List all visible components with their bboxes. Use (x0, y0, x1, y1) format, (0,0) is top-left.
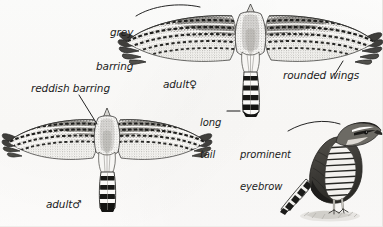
female-symbol-icon: ♀ (189, 78, 197, 90)
label-prominent-eyebrow: prominent eyebrow (240, 129, 291, 214)
label-grey-barring: grey barring (96, 5, 133, 94)
leader-reddish-barring (79, 95, 97, 124)
label-long-tail: long tail (200, 97, 221, 182)
label-adult-male: adult♂ (33, 188, 82, 221)
label-adult-female: adult♀ (150, 68, 197, 101)
label-prominent-eyebrow-line2: eyebrow (240, 182, 291, 193)
label-adult-female-text: adult (163, 78, 189, 90)
label-grey-barring-line2: barring (96, 61, 133, 72)
leader-grey-barring (136, 5, 200, 16)
label-grey-barring-line1: grey (96, 27, 133, 38)
label-prominent-eyebrow-line1: prominent (240, 150, 291, 161)
label-long-tail-line1: long (200, 118, 221, 129)
male-symbol-icon: ♂ (72, 198, 81, 210)
label-reddish-barring: reddish barring (31, 83, 110, 94)
leader-prominent-eyebrow (288, 121, 340, 131)
illustration-plate: grey barring adult♀ rounded wings reddis… (0, 0, 383, 227)
label-rounded-wings: rounded wings (283, 70, 359, 81)
label-long-tail-line2: tail (200, 150, 221, 161)
label-adult-male-text: adult (46, 198, 72, 210)
